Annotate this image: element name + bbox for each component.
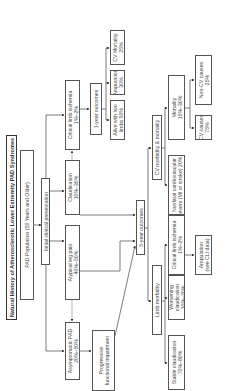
alive-two-limbs-box: Alive with two limbs 50% [110,100,125,140]
pad-population-box: PAD Population (50 Years and Older) [20,150,34,300]
nonfatal-cv-event-box: Nonfatal cardiovascular event (MI or str… [168,155,185,215]
diagram-title: Natural History of Atherosclerotic Lower… [6,135,17,320]
amputation-5yr-box: Amputation (see CLI data) [195,235,212,275]
cv-mortality-1yr-box: CV Mortality 25% [110,30,125,65]
critical-limb-ischemia-box: Critical limb ischemia 1%–2% [65,80,80,150]
progressive-impairment-box: Progressive functional impairment [92,330,115,391]
claudication-box: Claudication 10%–35% [65,160,80,215]
flowchart-canvas: Natural History of Atherosclerotic Lower… [0,0,238,391]
one-year-outcomes-box: 1-year outcomes [90,83,102,135]
cv-morbidity-mortality-box: CV morbidity & mortality [152,115,162,180]
five-year-outcomes-box: 5-year outcomes [136,200,145,255]
cv-causes-box: CV causes 75% [195,115,212,140]
critical-limb-ischemia-5yr-box: Critical limb ischemia 1%–2% [168,215,185,275]
stable-claudication-box: Stable claudication 70%–80% [168,335,185,390]
atypical-leg-pain-box: Atypical leg pain 40%–50% [65,225,80,300]
mortality-5yr-box: Mortality 15%–30% [168,75,185,140]
initial-presentation-box: Initial clinical presentation [41,178,50,265]
non-cv-causes-box: Non-CV causes 25% [195,55,212,105]
asymptomatic-pad-box: Asymptomatic PAD 20%–50% [65,322,80,380]
worsening-claudication-box: Worsening claudication 10%–20% [168,275,185,320]
limb-morbidity-box: Limb morbidity [152,265,162,335]
amputation-1yr-box: Amputation 30% [110,70,125,95]
